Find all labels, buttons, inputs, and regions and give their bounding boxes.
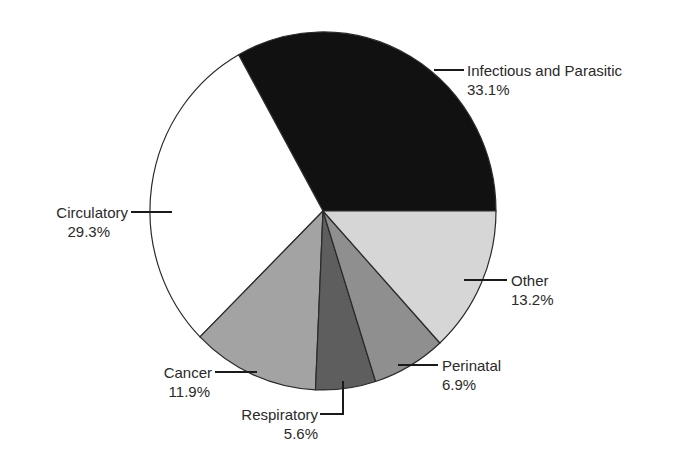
label-cancer-name: Cancer	[120, 363, 212, 382]
label-infectious: Infectious and Parasitic 33.1%	[467, 61, 622, 99]
label-infectious-name: Infectious and Parasitic	[467, 61, 622, 80]
label-perinatal: Perinatal 6.9%	[442, 356, 501, 394]
label-perinatal-name: Perinatal	[442, 356, 501, 375]
label-perinatal-value: 6.9%	[442, 375, 501, 394]
label-cancer-value: 11.9%	[120, 382, 212, 401]
label-circulatory-name: Circulatory	[20, 203, 128, 222]
label-circulatory-value: 29.3%	[20, 222, 128, 241]
label-cancer: Cancer 11.9%	[120, 363, 212, 401]
label-other: Other 13.2%	[511, 271, 554, 309]
label-other-value: 13.2%	[511, 290, 554, 309]
label-respiratory-value: 5.6%	[220, 424, 318, 443]
label-respiratory: Respiratory 5.6%	[220, 405, 318, 443]
label-infectious-value: 33.1%	[467, 80, 622, 99]
label-other-name: Other	[511, 271, 554, 290]
label-respiratory-name: Respiratory	[220, 405, 318, 424]
label-circulatory: Circulatory 29.3%	[20, 203, 128, 241]
